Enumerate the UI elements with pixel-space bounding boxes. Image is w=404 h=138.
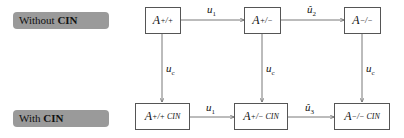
edge-label-u2-hat: û2	[307, 3, 316, 18]
edge-sub: c	[172, 69, 175, 77]
node-sup: +/−	[260, 16, 273, 25]
node-a-plus-minus: A+/−	[244, 7, 281, 34]
node-base: A	[252, 13, 259, 28]
edge-label-uc-2: uc	[266, 62, 275, 77]
edge-sub: 2	[313, 10, 317, 18]
edge-label-u3-hat: û3	[305, 101, 314, 116]
node-sup: +/+	[160, 16, 173, 25]
edge-label-u1-top: u1	[207, 3, 216, 18]
edge-sub: 1	[213, 10, 217, 18]
label-bold-text: CIN	[57, 14, 77, 26]
node-a-plus-plus: A+/+	[145, 7, 181, 34]
edge-label-uc-1: uc	[166, 62, 175, 77]
node-base: A	[243, 109, 250, 124]
node-base: A	[344, 109, 351, 124]
row-label-without-cin: Without CIN	[13, 12, 109, 29]
node-sup: −/−	[360, 16, 373, 25]
node-a-minus-minus: A−/−	[344, 7, 381, 34]
node-base: A	[153, 13, 160, 28]
node-a-plus-minus-cin: A+/− CIN	[234, 103, 288, 130]
edge-sub: 3	[311, 108, 315, 116]
node-base: A	[352, 13, 359, 28]
node-a-minus-minus-cin: A−/− CIN	[334, 103, 390, 130]
label-text: Without	[19, 14, 57, 26]
edge-label-uc-3: uc	[366, 62, 375, 77]
node-a-plus-plus-cin: A+/+ CIN	[135, 103, 190, 130]
node-base: A	[145, 109, 152, 124]
edge-label-u1-bottom: u1	[206, 101, 215, 116]
node-sup: +/− CIN	[250, 112, 278, 121]
row-label-with-cin: With CIN	[13, 110, 109, 127]
label-bold-text: CIN	[43, 112, 63, 124]
node-sup: −/− CIN	[351, 112, 379, 121]
label-text: With	[19, 112, 43, 124]
edge-sub: c	[372, 69, 375, 77]
edge-sub: c	[272, 69, 275, 77]
edge-sub: 1	[212, 108, 216, 116]
node-sup: +/+ CIN	[152, 112, 180, 121]
